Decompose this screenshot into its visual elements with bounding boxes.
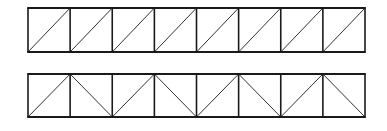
- diagonal-member: [28, 74, 70, 117]
- diagonal-member: [197, 74, 239, 117]
- diagonal-member: [281, 74, 323, 117]
- diagonal-member: [239, 8, 281, 52]
- truss-diagram: [0, 0, 387, 131]
- diagonal-member: [323, 8, 365, 52]
- diagonal-member: [112, 8, 154, 52]
- diagonal-member: [28, 8, 70, 52]
- diagonal-member: [197, 8, 239, 52]
- diagonal-member: [70, 74, 112, 117]
- diagonal-member: [154, 8, 196, 52]
- diagonal-member: [281, 8, 323, 52]
- bottom-truss: [28, 74, 365, 117]
- diagonal-member: [70, 8, 112, 52]
- truss-drawing: [0, 0, 387, 131]
- diagonal-member: [154, 74, 196, 117]
- diagonal-member: [239, 74, 281, 117]
- diagonal-member: [323, 74, 365, 117]
- top-truss: [28, 8, 365, 52]
- diagonal-member: [112, 74, 154, 117]
